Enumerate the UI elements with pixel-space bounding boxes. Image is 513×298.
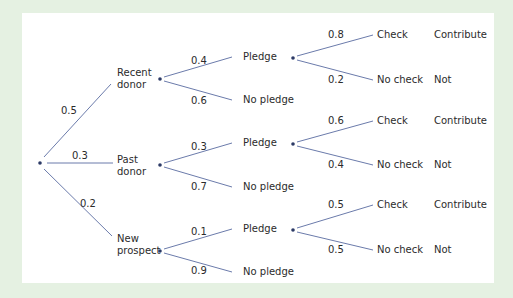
prob-pledge-2: 0.3 [191, 141, 207, 153]
outcome-contribute-2: Contribute [434, 115, 487, 127]
label-pledge-3: Pledge [243, 223, 277, 235]
prob-new: 0.2 [80, 198, 96, 210]
prob-nocheck-3: 0.5 [328, 244, 344, 256]
label-pledge-2: Pledge [243, 137, 277, 149]
label-check-3: Check [377, 199, 408, 211]
label-line: New [117, 233, 161, 245]
label-check-2: Check [377, 115, 408, 127]
label-nocheck-3: No check [377, 244, 423, 256]
label-nocheck-1: No check [377, 74, 423, 86]
prob-pledge-1: 0.4 [191, 55, 207, 67]
edge-root-new [44, 169, 112, 236]
outcome-not-1: Not [434, 74, 452, 86]
node-pledge-2 [291, 142, 295, 146]
label-new-prospect: New prospect [117, 233, 161, 257]
node-pledge-1 [291, 56, 295, 60]
label-nopledge-3: No pledge [243, 266, 294, 278]
label-line: prospect [117, 245, 161, 257]
node-past [158, 163, 162, 167]
prob-nopledge-2: 0.7 [191, 181, 207, 193]
node-recent [158, 77, 162, 81]
prob-check-1: 0.8 [328, 29, 344, 41]
node-pledge-3 [291, 228, 295, 232]
prob-nocheck-1: 0.2 [328, 74, 344, 86]
label-line: donor [117, 166, 146, 178]
prob-check-2: 0.6 [328, 115, 344, 127]
label-line: Recent [117, 67, 152, 79]
prob-nopledge-1: 0.6 [191, 95, 207, 107]
prob-check-3: 0.5 [328, 199, 344, 211]
prob-nocheck-2: 0.4 [328, 159, 344, 171]
label-line: Past [117, 154, 146, 166]
label-recent-donor: Recent donor [117, 67, 152, 91]
edge-root-recent [44, 84, 111, 157]
prob-nopledge-3: 0.9 [191, 265, 207, 277]
prob-recent: 0.5 [61, 105, 77, 117]
prob-pledge-3: 0.1 [191, 226, 207, 238]
outcome-not-2: Not [434, 159, 452, 171]
prob-past: 0.3 [72, 150, 88, 162]
label-check-1: Check [377, 29, 408, 41]
label-line: donor [117, 79, 152, 91]
outcome-not-3: Not [434, 244, 452, 256]
label-nocheck-2: No check [377, 159, 423, 171]
label-nopledge-2: No pledge [243, 181, 294, 193]
root-node [38, 161, 42, 165]
label-nopledge-1: No pledge [243, 94, 294, 106]
outcome-contribute-1: Contribute [434, 29, 487, 41]
label-past-donor: Past donor [117, 154, 146, 178]
outcome-contribute-3: Contribute [434, 199, 487, 211]
label-pledge-1: Pledge [243, 51, 277, 63]
